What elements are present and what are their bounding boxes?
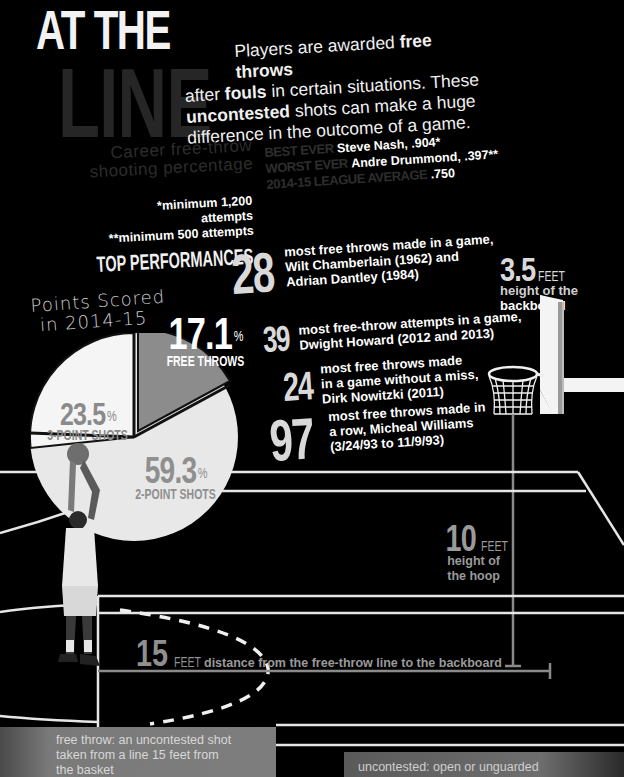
pie-label-3pt: 23.5% 3-POINT SHOTS [30, 398, 145, 443]
definition-text: : open or unguarded [426, 760, 539, 774]
pie-label-free-throws: 17.1% FREE THROWS [150, 312, 261, 369]
player-icon [40, 440, 110, 680]
hoop-height-unit: FEET [481, 537, 508, 554]
backboard-icon [540, 295, 624, 414]
hoop-height-label: 10 FEET height of the hoop [438, 522, 500, 584]
definition-free-throw: free throw: an uncontested shot taken fr… [0, 727, 276, 777]
distance-unit: FEET [174, 653, 192, 670]
definition-line: taken from a line 15 feet from [56, 748, 276, 763]
definition-line: free throw: an uncontested shot [56, 733, 276, 748]
pie-label-2pt: 59.3% 2-POINT SHOTS [118, 453, 233, 502]
free-throw-distance-label: 15 FEET distance from the free-throw lin… [136, 638, 502, 670]
hoop-height-number: 10 [446, 522, 476, 556]
definition-term: uncontested [358, 760, 426, 774]
definition-uncontested: uncontested: open or unguarded [344, 752, 624, 777]
distance-text: distance from the free-throw line to the… [204, 656, 502, 670]
definition-line: the basket [56, 763, 276, 777]
hoop-net-icon [489, 367, 544, 414]
distance-number: 15 [136, 638, 163, 670]
hoop-caption-line2: the hoop [438, 569, 500, 584]
